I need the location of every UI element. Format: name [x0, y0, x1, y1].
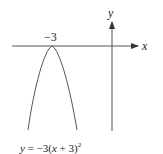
graph-canvas	[0, 0, 163, 154]
x-axis-label: x	[142, 40, 147, 52]
equation-rest: + 3)	[57, 142, 78, 154]
equation-label: y = −3(x + 3)2	[20, 139, 81, 154]
equation-eq: = −3(	[25, 142, 52, 154]
vertex-label: −3	[44, 31, 57, 43]
y-axis-label: y	[108, 7, 113, 19]
parabola-curve-refined	[28, 46, 77, 130]
equation-exponent: 2	[78, 141, 82, 149]
